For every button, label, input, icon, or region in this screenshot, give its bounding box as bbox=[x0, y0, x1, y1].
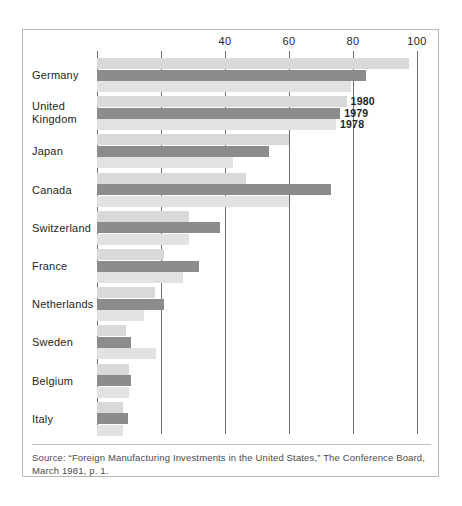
chart-figure-frame: 406080100GermanyUnited Kingdom1980197919… bbox=[22, 29, 439, 477]
category-label-sweden: Sweden bbox=[32, 336, 73, 349]
bar-belgium-1978 bbox=[97, 387, 129, 398]
bar-japan-1979 bbox=[97, 146, 269, 157]
bar-netherlands-1979 bbox=[97, 299, 164, 310]
bar-group-netherlands: Netherlands bbox=[23, 287, 440, 321]
bar-germany-1979 bbox=[97, 70, 366, 81]
bar-switzerland-1978 bbox=[97, 234, 189, 245]
legend-label-1979: 1979 bbox=[344, 107, 368, 119]
category-label-switzerland: Switzerland bbox=[32, 222, 91, 235]
x-axis-tick-label-100: 100 bbox=[407, 35, 426, 47]
bar-switzerland-1980 bbox=[97, 211, 189, 222]
bar-group-japan: Japan bbox=[23, 134, 440, 168]
legend-label-1978: 1978 bbox=[340, 118, 364, 130]
category-label-italy: Italy bbox=[32, 413, 53, 426]
bar-united-kingdom-1980 bbox=[97, 96, 347, 107]
source-line-2: March 1981, p. 1. bbox=[32, 465, 108, 476]
bar-belgium-1979 bbox=[97, 375, 131, 386]
category-label-netherlands: Netherlands bbox=[32, 298, 94, 311]
category-label-germany: Germany bbox=[32, 69, 79, 82]
bar-united-kingdom-1978 bbox=[97, 119, 336, 130]
category-label-united-kingdom: United Kingdom bbox=[32, 100, 77, 125]
x-axis-tick-label-40: 40 bbox=[219, 35, 232, 47]
category-label-belgium: Belgium bbox=[32, 375, 73, 388]
bar-japan-1978 bbox=[97, 157, 233, 168]
x-axis-tick-label-80: 80 bbox=[347, 35, 360, 47]
bar-united-kingdom-1979 bbox=[97, 108, 340, 119]
source-note: Source: “Foreign Manufacturing Investmen… bbox=[32, 451, 431, 477]
bar-italy-1978 bbox=[97, 425, 123, 436]
bar-netherlands-1980 bbox=[97, 287, 155, 298]
bar-group-france: France bbox=[23, 249, 440, 283]
source-divider bbox=[32, 444, 431, 445]
category-label-france: France bbox=[32, 260, 67, 273]
source-line-1: Source: “Foreign Manufacturing Investmen… bbox=[32, 452, 425, 463]
bar-sweden-1979 bbox=[97, 337, 131, 348]
legend-label-1980: 1980 bbox=[351, 95, 375, 107]
bar-germany-1980 bbox=[97, 58, 409, 69]
bar-sweden-1980 bbox=[97, 325, 126, 336]
bar-canada-1980 bbox=[97, 173, 246, 184]
bar-italy-1980 bbox=[97, 402, 123, 413]
bar-italy-1979 bbox=[97, 413, 128, 424]
bar-france-1979 bbox=[97, 261, 199, 272]
bar-sweden-1978 bbox=[97, 348, 156, 359]
bar-group-italy: Italy bbox=[23, 402, 440, 436]
bar-group-sweden: Sweden bbox=[23, 325, 440, 359]
bar-group-belgium: Belgium bbox=[23, 364, 440, 398]
bar-france-1978 bbox=[97, 272, 183, 283]
category-label-canada: Canada bbox=[32, 184, 72, 197]
x-axis-tick-label-60: 60 bbox=[283, 35, 296, 47]
bar-france-1980 bbox=[97, 249, 164, 260]
bar-canada-1979 bbox=[97, 184, 331, 195]
category-label-japan: Japan bbox=[32, 145, 63, 158]
bar-belgium-1980 bbox=[97, 364, 129, 375]
bar-group-united-kingdom: United Kingdom198019791978 bbox=[23, 96, 440, 130]
bar-germany-1978 bbox=[97, 81, 351, 92]
bar-switzerland-1979 bbox=[97, 222, 220, 233]
bar-netherlands-1978 bbox=[97, 310, 144, 321]
bar-canada-1978 bbox=[97, 196, 289, 207]
bar-japan-1980 bbox=[97, 134, 289, 145]
chart-plot-area: 406080100GermanyUnited Kingdom1980197919… bbox=[23, 30, 440, 445]
bar-group-germany: Germany bbox=[23, 58, 440, 92]
bar-group-switzerland: Switzerland bbox=[23, 211, 440, 245]
bar-group-canada: Canada bbox=[23, 173, 440, 207]
